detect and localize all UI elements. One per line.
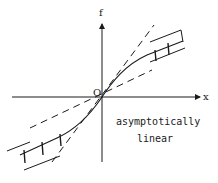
hatch-mark	[60, 134, 61, 146]
curve-lower	[20, 97, 102, 155]
x-axis-label: x	[203, 92, 209, 102]
band-upper-right	[150, 30, 181, 42]
hatch-mark	[42, 142, 43, 155]
band-lower-left	[24, 156, 60, 170]
annotation-line-2: linear	[137, 134, 173, 144]
hatch-mark	[155, 50, 156, 61]
f-axis-label: f	[99, 8, 103, 18]
band-upper-left	[7, 142, 30, 151]
annotation-line-1: asymptotically	[116, 117, 200, 127]
hatch-mark	[168, 43, 169, 55]
hatch-mark	[24, 150, 25, 163]
curve-upper	[102, 41, 183, 97]
band-end-right	[181, 30, 183, 42]
asymptotic-linear-diagram	[0, 0, 218, 183]
origin-label: O	[93, 88, 101, 98]
